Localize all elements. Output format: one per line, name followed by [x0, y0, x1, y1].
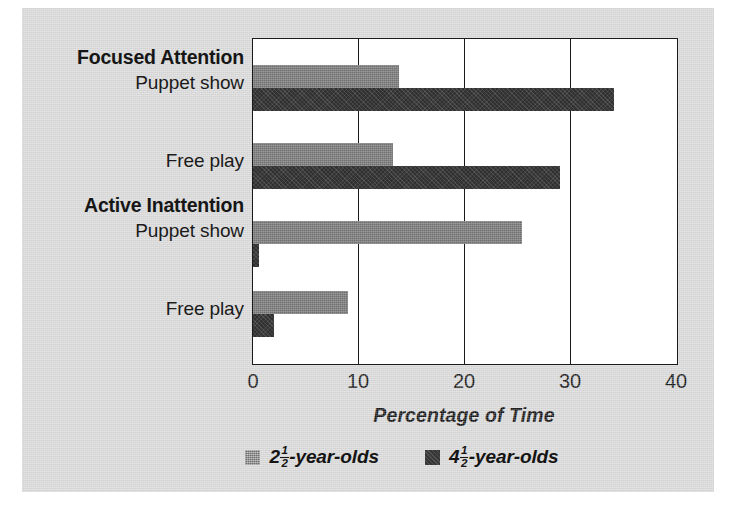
xtick-40: 40 — [665, 370, 687, 393]
legend-old-fraction: 12 — [460, 445, 468, 469]
legend-swatch-icon-young — [245, 450, 260, 465]
bar-inattention-freeplay-old — [253, 314, 274, 337]
legend-swatch-icon-old — [425, 450, 440, 465]
plot-area — [252, 38, 678, 365]
legend-old-suffix: -year-olds — [469, 446, 559, 468]
category-label-column: Focused Attention Puppet show Free play … — [22, 8, 244, 492]
legend-entry-4-and-a-half-year-olds: 412-year-olds — [425, 445, 559, 469]
legend-young-denominator: 2 — [280, 457, 288, 470]
group-heading-active-inattention: Active Inattention — [84, 194, 244, 217]
legend-old-denominator: 2 — [460, 457, 468, 470]
legend-young-fraction: 12 — [280, 445, 288, 469]
category-label-focused-puppet-show: Puppet show — [135, 72, 244, 94]
xtick-10: 10 — [347, 370, 369, 393]
legend-young-numerator: 1 — [280, 445, 288, 457]
legend-young-suffix: -year-olds — [289, 446, 379, 468]
category-label-focused-free-play: Free play — [166, 150, 244, 172]
legend-young-whole: 2 — [269, 446, 279, 468]
xtick-0: 0 — [247, 370, 258, 393]
bar-focused-puppet-young — [253, 65, 399, 88]
bar-focused-puppet-old — [253, 88, 614, 111]
x-axis-title: Percentage of Time — [252, 404, 676, 427]
group-heading-focused-attention: Focused Attention — [77, 46, 244, 69]
category-label-inattention-free-play: Free play — [166, 298, 244, 320]
legend-label-old: 412-year-olds — [449, 445, 559, 469]
legend-entry-2-and-a-half-year-olds: 212-year-olds — [245, 445, 379, 469]
category-label-inattention-puppet-show: Puppet show — [135, 220, 244, 242]
legend: 212-year-olds 412-year-olds — [202, 445, 602, 469]
legend-old-whole: 4 — [449, 446, 459, 468]
xtick-20: 20 — [453, 370, 475, 393]
bar-inattention-puppet-young — [253, 221, 522, 244]
xtick-30: 30 — [559, 370, 581, 393]
legend-label-young: 212-year-olds — [269, 445, 379, 469]
legend-old-numerator: 1 — [460, 445, 468, 457]
bar-inattention-puppet-old — [253, 244, 259, 267]
bar-focused-freeplay-young — [253, 143, 393, 166]
bar-inattention-freeplay-young — [253, 291, 348, 314]
bar-focused-freeplay-old — [253, 166, 560, 189]
figure-panel: Focused Attention Puppet show Free play … — [22, 8, 714, 492]
